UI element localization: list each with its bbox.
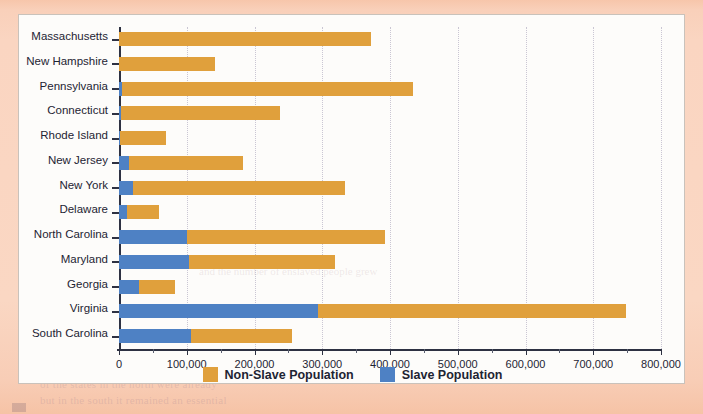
y-axis-label-pennsylvania: Pennsylvania [40, 80, 108, 92]
y-axis-label-south-carolina: South Carolina [32, 327, 108, 339]
bar-row: New Hampshire [119, 52, 661, 77]
bar-segment-slave[interactable] [119, 304, 318, 318]
bar-segment-non-slave[interactable] [119, 57, 215, 71]
bar-segment-non-slave[interactable] [122, 82, 413, 96]
y-axis-tick [112, 113, 119, 115]
bar-segment-slave[interactable] [119, 255, 189, 269]
y-axis-label-massachusetts: Massachusetts [31, 30, 108, 42]
bar-segment-non-slave[interactable] [129, 156, 243, 170]
bar-segment-slave[interactable] [119, 230, 187, 244]
legend-label-non-slave-population: Non-Slave Population [225, 368, 354, 382]
x-axis-minor-tick [559, 349, 560, 353]
x-axis-minor-tick [153, 349, 154, 353]
orange-swatch [203, 367, 218, 382]
y-axis-label-new-york: New York [59, 179, 108, 191]
y-axis-tick [112, 138, 119, 140]
y-axis-label-new-hampshire: New Hampshire [26, 55, 108, 67]
y-axis-tick [112, 237, 119, 239]
x-axis-minor-tick [424, 349, 425, 353]
y-axis-tick [112, 63, 119, 65]
y-axis-tick [112, 187, 119, 189]
bar-row: South Carolina [119, 324, 661, 349]
x-axis-minor-tick [356, 349, 357, 353]
x-axis-tick [458, 349, 459, 355]
bar-row: Pennsylvania [119, 77, 661, 102]
bar-row: Maryland [119, 250, 661, 275]
bar-row: Connecticut [119, 101, 661, 126]
x-axis-tick [119, 349, 120, 355]
y-axis-label-georgia: Georgia [67, 278, 108, 290]
chart-panel: and the number of enslaved people grew M… [18, 14, 685, 384]
bar-segment-non-slave[interactable] [318, 304, 626, 318]
bar-segment-non-slave[interactable] [119, 32, 371, 46]
y-axis-tick [112, 311, 119, 313]
page-corner-mark [12, 403, 26, 412]
y-axis-label-maryland: Maryland [61, 253, 108, 265]
bar-segment-non-slave[interactable] [191, 329, 291, 343]
x-axis-minor-tick [221, 349, 222, 353]
legend-item-non-slave-population[interactable]: Non-Slave Population [203, 367, 354, 382]
bar-segment-slave[interactable] [119, 280, 139, 294]
blue-swatch [380, 367, 395, 382]
gridline [661, 27, 662, 349]
plot-area: MassachusettsNew HampshirePennsylvaniaCo… [119, 27, 661, 349]
bar-segment-non-slave[interactable] [187, 230, 385, 244]
x-axis-tick [593, 349, 594, 355]
bar-row: North Carolina [119, 225, 661, 250]
x-axis-tick [390, 349, 391, 355]
bar-segment-non-slave[interactable] [120, 131, 166, 145]
bar-segment-non-slave[interactable] [189, 255, 335, 269]
x-axis-minor-tick [288, 349, 289, 353]
x-axis-minor-tick [627, 349, 628, 353]
chart-legend: Non-Slave Population Slave Population [19, 367, 686, 382]
page-root: of the states in the north were already … [0, 0, 703, 414]
bar-row: Massachusetts [119, 27, 661, 52]
bar-segment-slave[interactable] [119, 205, 127, 219]
legend-label-slave-population: Slave Population [402, 368, 503, 382]
bar-row: Rhode Island [119, 126, 661, 151]
bar-row: Delaware [119, 200, 661, 225]
bar-row: New Jersey [119, 151, 661, 176]
bar-segment-non-slave[interactable] [127, 205, 159, 219]
bar-segment-non-slave[interactable] [133, 181, 344, 195]
ghost-text-line-2: but in the south it remained an essentia… [40, 394, 227, 406]
x-axis-minor-tick [492, 349, 493, 353]
bar-segment-non-slave[interactable] [121, 106, 280, 120]
y-axis-label-north-carolina: North Carolina [34, 228, 108, 240]
bar-segment-slave[interactable] [119, 156, 129, 170]
bar-row: Georgia [119, 275, 661, 300]
y-axis-label-connecticut: Connecticut [47, 104, 108, 116]
y-axis-tick [112, 88, 119, 90]
y-axis-label-rhode-island: Rhode Island [40, 129, 108, 141]
bar-segment-slave[interactable] [119, 329, 191, 343]
x-axis-tick [526, 349, 527, 355]
bar-row: New York [119, 176, 661, 201]
bar-segment-non-slave[interactable] [139, 280, 175, 294]
y-axis-label-delaware: Delaware [59, 203, 108, 215]
y-axis-tick [112, 162, 119, 164]
y-axis-tick [112, 261, 119, 263]
y-axis-tick [112, 336, 119, 338]
x-axis-tick [255, 349, 256, 355]
x-axis-tick [661, 349, 662, 355]
x-axis-line [117, 349, 661, 351]
bar-row: Virginia [119, 299, 661, 324]
bar-segment-slave[interactable] [119, 181, 133, 195]
x-axis-tick [187, 349, 188, 355]
legend-item-slave-population[interactable]: Slave Population [380, 367, 503, 382]
y-axis-tick [112, 39, 119, 41]
y-axis-tick [112, 212, 119, 214]
x-axis-tick [322, 349, 323, 355]
y-axis-label-new-jersey: New Jersey [48, 154, 108, 166]
y-axis-tick [112, 286, 119, 288]
y-axis-label-virginia: Virginia [70, 302, 108, 314]
